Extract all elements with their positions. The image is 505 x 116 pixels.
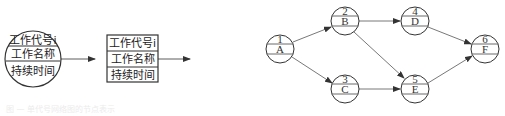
figure-caption: 图 — 单代号网络图的节点表示 xyxy=(6,103,115,114)
circle-row-code: 工作代号i xyxy=(9,34,56,47)
legend-box-node: 工作代号i 工作名称 持续时间 xyxy=(107,35,190,82)
box-row-code: 工作代号i xyxy=(109,37,156,50)
circle-row-name: 工作名称 xyxy=(11,47,55,61)
edge-2-5 xyxy=(354,32,404,78)
edge-1-2 xyxy=(293,27,331,42)
network-node-3: 3 C xyxy=(331,73,359,103)
edge-5-6 xyxy=(428,56,472,83)
network-node-6: 6 F xyxy=(471,33,499,63)
edge-1-3 xyxy=(292,57,332,83)
node-6-name: F xyxy=(482,43,488,55)
network-edges xyxy=(292,21,472,89)
network-node-1: 1 A xyxy=(266,33,294,63)
diagram-canvas: 工作代号i 工作名称 持续时间 工作代号i 工作名称 持续时间 1 A 2 xyxy=(0,0,505,116)
edge-4-6 xyxy=(428,27,471,44)
legend-circle-node: 工作代号i 工作名称 持续时间 xyxy=(5,31,95,87)
node-3-name: C xyxy=(341,83,348,95)
node-1-name: A xyxy=(276,43,284,55)
network-node-2: 2 B xyxy=(331,5,359,35)
node-5-name: E xyxy=(412,83,419,95)
box-row-name: 工作名称 xyxy=(111,52,155,66)
network-node-5: 5 E xyxy=(401,73,429,103)
network-node-4: 4 D xyxy=(401,5,429,35)
node-2-name: B xyxy=(341,15,348,27)
node-4-name: D xyxy=(411,15,419,27)
circle-row-duration: 持续时间 xyxy=(11,64,55,78)
box-row-duration: 持续时间 xyxy=(111,68,155,82)
